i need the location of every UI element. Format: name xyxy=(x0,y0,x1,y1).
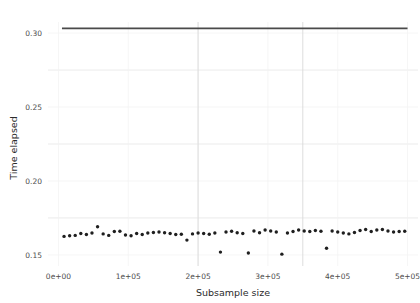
data-point xyxy=(386,229,389,232)
x-tick-label: 0e+00 xyxy=(46,272,71,281)
data-point xyxy=(280,252,283,255)
data-point xyxy=(163,231,166,234)
data-point xyxy=(174,233,177,236)
data-point xyxy=(62,235,65,238)
data-point xyxy=(263,228,266,231)
y-axis-title: Time elapsed xyxy=(8,116,19,180)
data-point xyxy=(168,232,171,235)
x-tick-label: 5e+05 xyxy=(395,272,420,281)
data-point xyxy=(196,231,199,234)
data-point xyxy=(330,229,333,232)
data-point xyxy=(314,229,317,232)
data-point xyxy=(146,231,149,234)
series-layer xyxy=(62,28,408,256)
data-point xyxy=(258,231,261,234)
data-point xyxy=(381,228,384,231)
data-point xyxy=(291,230,294,233)
data-point xyxy=(152,231,155,234)
data-point xyxy=(213,231,216,234)
data-point xyxy=(247,251,250,254)
data-point xyxy=(370,230,373,233)
data-point xyxy=(219,250,222,253)
y-tick-label: 0.30 xyxy=(25,29,42,38)
data-point xyxy=(269,229,272,232)
data-point xyxy=(353,231,356,234)
x-tick-label: 3e+05 xyxy=(255,272,280,281)
data-point xyxy=(303,229,306,232)
data-point xyxy=(79,232,82,235)
x-tick-label: 4e+05 xyxy=(325,272,350,281)
data-point xyxy=(230,230,233,233)
data-point xyxy=(286,231,289,234)
y-tick-label: 0.25 xyxy=(25,103,42,112)
data-point xyxy=(157,230,160,233)
data-point xyxy=(358,229,361,232)
data-point xyxy=(101,232,104,235)
data-point xyxy=(107,234,110,237)
data-point xyxy=(90,231,93,234)
data-point xyxy=(319,230,322,233)
x-tick-label: 2e+05 xyxy=(185,272,210,281)
data-point xyxy=(135,232,138,235)
data-point xyxy=(129,234,132,237)
data-point xyxy=(74,234,77,237)
y-tick-label: 0.20 xyxy=(25,177,42,186)
data-point xyxy=(347,232,350,235)
data-point xyxy=(85,233,88,236)
data-point xyxy=(202,232,205,235)
data-point xyxy=(185,238,188,241)
data-point xyxy=(252,229,255,232)
y-tick-label: 0.15 xyxy=(25,251,42,260)
data-point xyxy=(141,233,144,236)
data-point xyxy=(364,228,367,231)
data-point xyxy=(224,230,227,233)
grid-layer xyxy=(48,22,418,266)
data-point xyxy=(308,230,311,233)
data-point xyxy=(113,230,116,233)
data-point xyxy=(336,230,339,233)
data-point xyxy=(191,232,194,235)
data-point xyxy=(325,247,328,250)
data-point xyxy=(241,232,244,235)
data-point xyxy=(392,230,395,233)
data-point xyxy=(118,230,121,233)
data-point xyxy=(235,231,238,234)
x-axis-tick-labels: 0e+001e+052e+053e+054e+055e+05 xyxy=(46,272,420,281)
data-point xyxy=(342,231,345,234)
scatter-plot: 0e+001e+052e+053e+054e+055e+05 0.150.200… xyxy=(0,0,420,303)
data-point xyxy=(208,233,211,236)
data-point xyxy=(397,230,400,233)
y-axis-tick-labels: 0.150.200.250.30 xyxy=(25,29,42,260)
data-point xyxy=(375,228,378,231)
x-axis-title: Subsample size xyxy=(196,287,270,298)
data-point xyxy=(96,225,99,228)
data-point xyxy=(124,233,127,236)
data-point xyxy=(275,230,278,233)
data-point xyxy=(403,230,406,233)
x-tick-label: 1e+05 xyxy=(116,272,141,281)
chart-container: 0e+001e+052e+053e+054e+055e+05 0.150.200… xyxy=(0,0,420,303)
data-point xyxy=(297,228,300,231)
data-point xyxy=(180,233,183,236)
data-point xyxy=(68,234,71,237)
